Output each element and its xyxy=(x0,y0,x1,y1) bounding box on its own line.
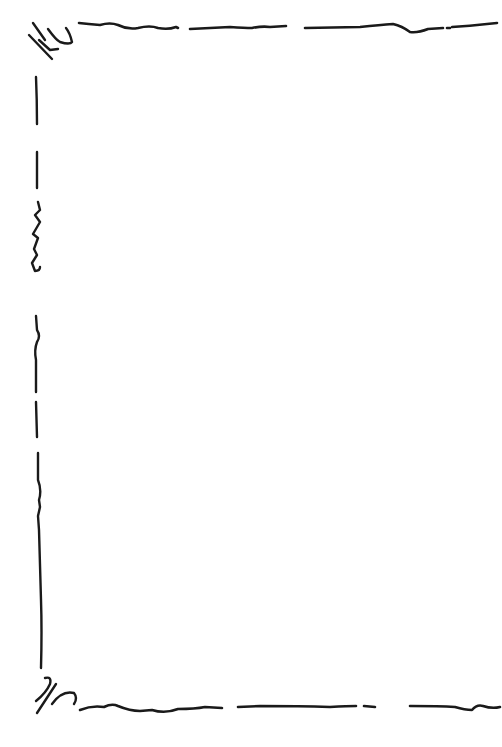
top-left-corner-flourish xyxy=(29,23,72,59)
top-border-line xyxy=(79,23,497,32)
decorative-border-frame xyxy=(0,0,502,747)
left-border-line xyxy=(32,77,42,668)
bottom-border-line xyxy=(80,705,500,712)
bottom-left-corner-flourish xyxy=(36,678,76,713)
